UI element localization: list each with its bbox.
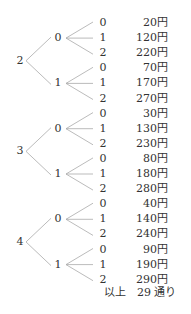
root-digit: 2 [17, 55, 24, 67]
root-digit: 4 [17, 236, 24, 248]
leaf-price: 120円 [98, 32, 168, 44]
leaf-price: 170円 [98, 77, 168, 89]
leaf-price: 20円 [98, 17, 168, 29]
leaf-price: 140円 [98, 213, 168, 225]
leaf-price: 230円 [98, 138, 168, 150]
branch-digit: 1 [55, 77, 62, 89]
branch-digit: 1 [55, 259, 62, 271]
leaf-price: 180円 [98, 168, 168, 180]
leaf-price: 190円 [98, 259, 168, 271]
leaf-price: 30円 [98, 108, 168, 120]
branch-digit: 0 [55, 213, 62, 225]
branch-digit: 0 [55, 32, 62, 44]
leaf-price: 80円 [98, 153, 168, 165]
leaf-price: 280円 [98, 183, 168, 195]
leaf-price: 290円 [98, 274, 168, 286]
leaf-price: 220円 [98, 47, 168, 59]
leaf-price: 270円 [98, 93, 168, 105]
leaf-price: 40円 [98, 198, 168, 210]
leaf-price: 240円 [98, 228, 168, 240]
total-count: 以上 29 通り [104, 287, 177, 299]
branch-digit: 1 [55, 168, 62, 180]
root-digit: 3 [17, 145, 24, 157]
branch-digit: 0 [55, 123, 62, 135]
leaf-price: 70円 [98, 62, 168, 74]
leaf-price: 130円 [98, 123, 168, 135]
leaf-price: 90円 [98, 244, 168, 256]
